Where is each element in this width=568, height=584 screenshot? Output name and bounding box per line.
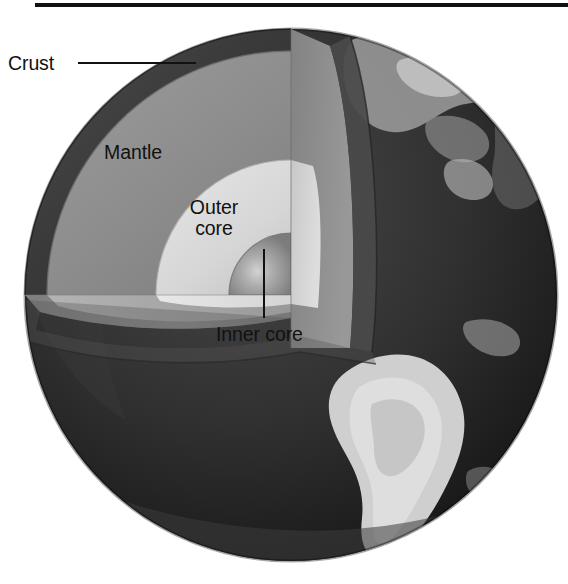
label-inner-core: Inner core (216, 324, 303, 345)
earth-cutaway-figure: Crust Mantle Outer core Inner core (0, 0, 568, 584)
label-outer-core: Outer core (171, 197, 257, 239)
label-crust: Crust (8, 53, 54, 74)
label-mantle: Mantle (104, 142, 162, 163)
wedge-side-wall-outer-core (291, 160, 321, 308)
earth-diagram-svg (0, 0, 568, 584)
